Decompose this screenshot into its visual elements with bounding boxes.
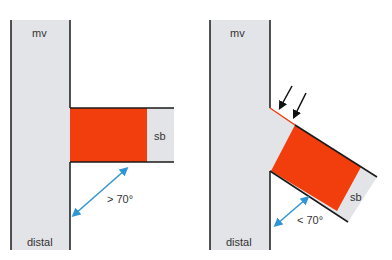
label-angle: > 70°: [107, 193, 133, 205]
bifurcation-diagram: mv distal sb > 70° mv distal sb < 70°: [0, 0, 392, 260]
label-mv: mv: [230, 27, 245, 39]
main-vessel: [11, 20, 70, 250]
pointer-arrow-1: [281, 86, 292, 106]
stent-segment: [70, 108, 147, 162]
right-panel: mv distal sb < 70°: [210, 20, 377, 250]
angle-arrow: [75, 170, 125, 214]
label-distal: distal: [27, 236, 53, 248]
label-sb: sb: [154, 130, 166, 142]
label-angle: < 70°: [297, 214, 323, 226]
left-panel: mv distal sb > 70°: [11, 20, 174, 250]
label-sb: sb: [350, 191, 362, 203]
label-distal: distal: [226, 236, 252, 248]
pointer-arrow-2: [295, 93, 306, 115]
label-mv: mv: [32, 27, 47, 39]
main-vessel: [210, 20, 270, 250]
